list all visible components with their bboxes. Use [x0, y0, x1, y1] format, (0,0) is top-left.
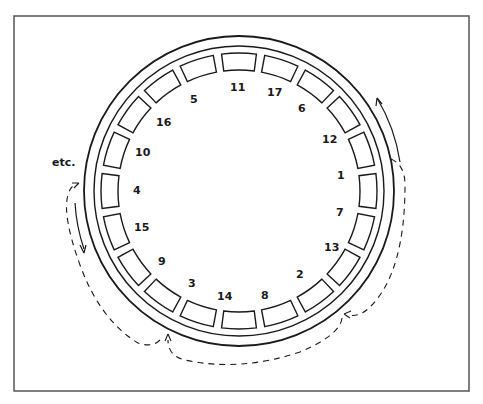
- slot: [144, 279, 180, 312]
- slot: [144, 70, 180, 103]
- slot: [101, 174, 119, 209]
- arrowhead-bottom-icon: [165, 334, 171, 341]
- slot: [327, 96, 360, 132]
- slot: [180, 300, 216, 326]
- slot-number-label: 2: [296, 268, 304, 281]
- slot-number-label: 10: [135, 146, 151, 159]
- slot: [348, 132, 374, 168]
- slot-number-label: 7: [336, 206, 344, 219]
- slot-number-label: 14: [217, 290, 233, 303]
- slot-number-label: 4: [133, 184, 141, 197]
- arrowhead-right-icon: [344, 311, 351, 318]
- slot-number-label: 9: [158, 255, 166, 268]
- slot: [103, 214, 129, 250]
- slot: [262, 55, 298, 81]
- slot: [118, 249, 151, 285]
- rotation-arrow-left-icon: [75, 203, 84, 249]
- slot-number-label: 16: [156, 116, 172, 129]
- slot: [180, 55, 216, 81]
- slot: [118, 96, 151, 132]
- etc-label: etc.: [52, 156, 75, 169]
- slot-number-label: 3: [188, 277, 196, 290]
- slot: [359, 174, 377, 209]
- slot-wheel-diagram: 1117612171328143915410165 etc.: [0, 0, 483, 404]
- slot-number-label: 8: [261, 289, 269, 302]
- slot-number-label: 11: [230, 81, 245, 94]
- slot: [297, 279, 333, 312]
- slot: [327, 249, 360, 285]
- slot: [348, 214, 374, 250]
- slot: [103, 132, 129, 168]
- slot-number-label: 5: [190, 93, 198, 106]
- arrowhead-topleft-icon: [72, 183, 79, 188]
- slot-number-label: 17: [267, 86, 282, 99]
- slots: [101, 53, 377, 329]
- diagram-frame: [14, 16, 469, 391]
- slot-number-label: 13: [324, 241, 339, 254]
- slot: [262, 300, 298, 326]
- slot-number-label: 15: [134, 221, 149, 234]
- slot-number-label: 12: [322, 133, 337, 146]
- slot-number-label: 1: [337, 169, 345, 182]
- slot: [297, 70, 333, 103]
- slot-number-labels: 1117612171328143915410165: [133, 81, 345, 303]
- slot: [222, 311, 257, 329]
- slot-number-label: 6: [298, 102, 306, 115]
- slot: [222, 53, 257, 71]
